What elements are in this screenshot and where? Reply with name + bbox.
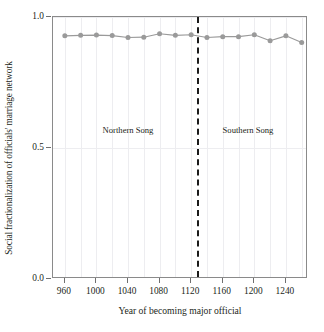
y-axis-title: Social fractionalization of officials' m… xyxy=(0,18,18,298)
data-point-marker xyxy=(299,40,304,45)
data-point-marker xyxy=(204,35,209,40)
data-point-marker xyxy=(173,33,178,38)
x-tick-mark xyxy=(159,278,160,283)
x-axis-title: Year of becoming major official xyxy=(52,305,308,316)
data-point-marker xyxy=(126,35,131,40)
x-tick-mark xyxy=(222,278,223,283)
data-point-marker xyxy=(141,35,146,40)
x-tick-mark xyxy=(253,278,254,283)
x-tick-mark xyxy=(127,278,128,283)
data-point-marker xyxy=(252,32,257,37)
y-tick-label: 0.0 xyxy=(0,273,44,283)
era-divider-line xyxy=(197,17,199,277)
y-tick-mark xyxy=(46,278,51,279)
data-point-marker xyxy=(157,31,162,36)
x-tick-label: 1240 xyxy=(263,286,307,296)
x-tick-mark xyxy=(190,278,191,283)
y-tick-label: 0.5 xyxy=(0,142,44,152)
chart-figure: Social fractionalization of officials' m… xyxy=(0,0,324,332)
plot-area: Northern SongSouthern Song xyxy=(52,16,307,278)
data-point-marker xyxy=(78,33,83,38)
data-point-marker xyxy=(189,32,194,37)
data-point-marker xyxy=(220,34,225,39)
data-point-marker xyxy=(236,34,241,39)
y-tick-mark xyxy=(46,147,51,148)
x-tick-mark xyxy=(64,278,65,283)
era-annotation-label: Northern Song xyxy=(103,125,154,135)
data-point-marker xyxy=(110,33,115,38)
era-annotation-label: Southern Song xyxy=(223,125,274,135)
data-point-marker xyxy=(94,33,99,38)
data-series-line xyxy=(53,17,307,278)
y-tick-mark xyxy=(46,16,51,17)
data-point-marker xyxy=(283,33,288,38)
data-point-marker xyxy=(268,38,273,43)
data-point-marker xyxy=(62,33,67,38)
x-tick-mark xyxy=(285,278,286,283)
x-tick-mark xyxy=(95,278,96,283)
y-tick-label: 1.0 xyxy=(0,11,44,21)
